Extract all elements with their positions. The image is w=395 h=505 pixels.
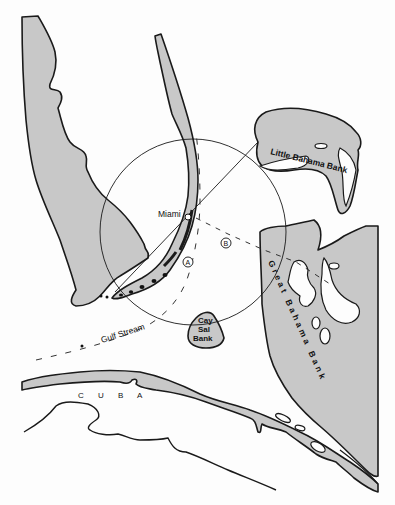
- label-point-b: B: [224, 240, 229, 247]
- label-great-bahama-bank: Great Bahama Bank: [266, 259, 329, 383]
- label-miami: Miami: [158, 209, 181, 219]
- label-cay-sal-2: Sal: [198, 325, 210, 334]
- label-cay-sal-1: Cay: [198, 316, 213, 325]
- map-labels: Miami A B Little Bahama Bank Great Baham…: [0, 0, 395, 505]
- label-cuba: C U B A: [78, 391, 148, 400]
- label-little-bahama-bank: Little Bahama Bank: [270, 146, 349, 175]
- label-cay-sal-3: Bank: [193, 334, 213, 343]
- label-point-a: A: [186, 259, 191, 266]
- label-gulf-stream: Gulf Stream: [100, 321, 146, 345]
- map: Miami A B Little Bahama Bank Great Baham…: [0, 0, 395, 505]
